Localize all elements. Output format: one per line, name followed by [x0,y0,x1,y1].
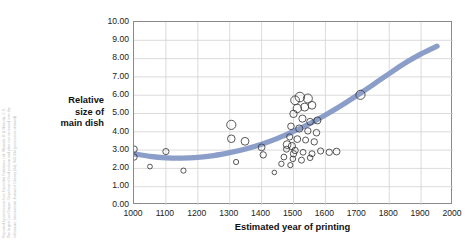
data-point [283,146,289,152]
data-point [260,152,266,158]
data-point [305,128,311,134]
data-point [227,120,236,129]
data-point [233,159,238,164]
y-tick-label: 0.00 [85,200,129,209]
y-tick-label: 10.00 [85,17,129,26]
y-tick-label: 5.00 [85,108,129,117]
data-point [294,136,301,143]
data-point [313,129,320,136]
data-point [301,103,309,111]
y-tick-label: 6.00 [85,90,129,99]
data-point [228,135,236,143]
y-tick-label: 8.00 [85,53,129,62]
chart-svg [134,22,453,205]
x-tick-label: 2000 [432,209,472,218]
chart-figure: Reprinted by permission from Macmillan P… [0,0,473,250]
y-tick-label: 4.00 [85,127,129,136]
data-point [333,148,340,155]
data-point [272,170,277,175]
data-point [299,115,306,122]
data-point [308,101,316,109]
x-axis-title: Estimated year of printing [133,221,452,232]
y-tick-label: 2.00 [85,163,129,172]
data-point [293,104,301,112]
data-point [288,163,293,168]
data-point [298,157,304,163]
y-tick-label: 3.00 [85,145,129,154]
data-point [318,148,324,154]
data-point [241,137,249,145]
gridlines [134,22,453,205]
plot-area [133,21,452,204]
y-tick-label: 7.00 [85,72,129,81]
data-point [311,139,317,145]
y-tick-label: 9.00 [85,35,129,44]
plot-container: 0.001.002.003.004.005.006.007.008.009.00… [0,0,473,250]
data-point [281,154,287,160]
data-point [303,137,309,143]
y-tick-label: 1.00 [85,181,129,190]
data-point-markers [134,90,365,174]
data-point [279,161,284,166]
